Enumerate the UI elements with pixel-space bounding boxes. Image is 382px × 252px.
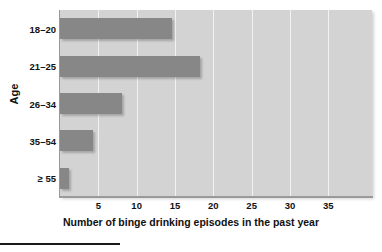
x-axis-tick-label: 30 xyxy=(275,200,305,211)
bar xyxy=(60,130,93,151)
gridline xyxy=(175,10,176,197)
y-axis-tick-label: 26–34 xyxy=(14,98,56,109)
footer-rule xyxy=(0,243,120,245)
gridline xyxy=(213,10,214,197)
y-axis-tick-labels: 18–2021–2526–3435–54≥ 55 xyxy=(14,10,56,197)
plot-area xyxy=(60,10,372,197)
bar xyxy=(60,93,122,114)
y-axis-tick-label: 21–25 xyxy=(14,61,56,72)
x-axis-tick-label: 10 xyxy=(122,200,152,211)
y-axis-tick-label: 18–20 xyxy=(14,23,56,34)
bar xyxy=(60,18,172,39)
x-axis-line xyxy=(59,196,373,198)
binge-drinking-bar-chart: Age 18–2021–2526–3435–54≥ 55 51015202530… xyxy=(0,0,382,252)
x-axis-tick-label: 35 xyxy=(313,200,343,211)
gridline xyxy=(290,10,291,197)
x-axis-tick-label: 15 xyxy=(160,200,190,211)
x-axis-tick-labels: 5101520253035 xyxy=(60,200,372,214)
x-axis-tick-label: 25 xyxy=(237,200,267,211)
x-axis-tick-label: 20 xyxy=(198,200,228,211)
gridline xyxy=(252,10,253,197)
bar xyxy=(60,168,69,189)
x-axis-tick-label: 5 xyxy=(83,200,113,211)
x-axis-title: Number of binge drinking episodes in the… xyxy=(0,216,382,228)
bar xyxy=(60,56,200,77)
y-axis-tick-label: 35–54 xyxy=(14,135,56,146)
y-axis-tick-label: ≥ 55 xyxy=(14,173,56,184)
gridline xyxy=(328,10,329,197)
